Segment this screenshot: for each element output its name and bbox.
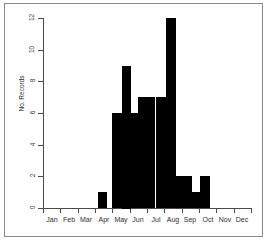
x-tick <box>182 208 183 213</box>
y-tick-label-text: 2 <box>30 174 37 178</box>
x-tick <box>164 208 165 213</box>
histogram-bar <box>138 97 155 208</box>
y-tick-label-text: 4 <box>30 143 37 147</box>
y-tick <box>38 18 43 19</box>
y-tick <box>38 145 43 146</box>
histogram-bar <box>200 176 210 208</box>
histogram-bar <box>98 192 107 208</box>
y-tick <box>38 113 43 114</box>
y-tick-label: 4 <box>5 141 35 148</box>
histogram-bar <box>176 176 192 208</box>
x-tick <box>216 208 217 213</box>
y-tick <box>38 81 43 82</box>
x-tick <box>112 208 113 213</box>
histogram-bar <box>156 97 166 208</box>
x-tick <box>199 208 200 213</box>
histogram-bar <box>112 113 122 208</box>
x-tick <box>78 208 79 213</box>
x-tick <box>234 208 235 213</box>
y-tick-label-text: 12 <box>28 14 35 21</box>
x-tick <box>43 208 44 213</box>
y-tick-label-text: 6 <box>30 111 37 115</box>
figure-panel: No. Records 024681012 JanFebMarAprMayJun… <box>4 3 263 237</box>
y-tick-label-text: 8 <box>30 79 37 83</box>
x-tick-label: Dec <box>229 216 255 223</box>
y-tick <box>38 50 43 51</box>
x-tick <box>60 208 61 213</box>
x-tick <box>95 208 96 213</box>
y-tick-label: 0 <box>5 204 35 211</box>
y-tick-label: 2 <box>5 172 35 179</box>
x-tick <box>147 208 148 213</box>
y-tick-label: 8 <box>5 77 35 84</box>
y-tick-label-text: 0 <box>30 206 37 210</box>
histogram-bar <box>192 192 200 208</box>
x-tick <box>251 208 252 213</box>
y-tick-label: 6 <box>5 109 35 116</box>
y-tick-label: 12 <box>5 14 35 21</box>
y-axis-line <box>43 18 44 208</box>
y-tick-label-text: 10 <box>28 46 35 53</box>
y-tick-label: 10 <box>5 46 35 53</box>
histogram-bar <box>166 18 176 208</box>
y-tick <box>38 176 43 177</box>
histogram-bar <box>122 66 131 209</box>
